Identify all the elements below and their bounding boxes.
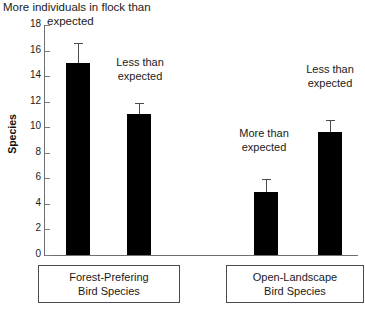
plot-area: 18 16 14 12 10 8 6 4	[44, 25, 358, 255]
y-tick-mark	[45, 76, 50, 77]
annotation-line-1: Less than	[306, 63, 354, 75]
annotation-open-more-than-expected: More than expected	[224, 126, 304, 154]
y-tick-label-2: 2	[11, 222, 41, 233]
y-tick-label-18: 18	[11, 18, 41, 29]
annotation-line-1: Less than	[116, 56, 164, 68]
error-bar-open-less-than-expected	[330, 121, 331, 133]
y-axis-line	[44, 25, 45, 256]
y-tick-label-16: 16	[11, 44, 41, 55]
error-cap-forest-less-than-expected	[135, 103, 144, 104]
y-tick-mark	[45, 102, 50, 103]
group-label-line-2: Bird Species	[264, 284, 326, 298]
group-label-open-landscape-bird-species: Open-Landscape Bird Species	[226, 265, 364, 303]
group-label-line-2: Bird Species	[78, 284, 140, 298]
y-tick-label-6: 6	[11, 171, 41, 182]
error-bar-forest-more-than-expected	[78, 44, 79, 63]
annotation-forest-less-than-expected: Less than expected	[100, 55, 180, 83]
y-tick-label-12: 12	[11, 95, 41, 106]
group-label-line-1: Open-Landscape	[253, 270, 337, 284]
bar-chart-figure: More individuals in flock than expected …	[0, 0, 365, 311]
annotation-line-2: expected	[308, 77, 353, 89]
y-tick-mark	[45, 255, 50, 256]
error-bar-forest-less-than-expected	[139, 104, 140, 114]
x-axis-line	[44, 255, 358, 256]
y-tick-mark	[45, 153, 50, 154]
y-tick-mark	[45, 229, 50, 230]
y-tick-label-10: 10	[11, 120, 41, 131]
annotation-line-2: expected	[118, 70, 163, 82]
annotation-open-less-than-expected: Less than expected	[290, 62, 365, 90]
annotation-line-2: expected	[242, 141, 287, 153]
y-tick-label-14: 14	[11, 69, 41, 80]
error-cap-open-less-than-expected	[326, 120, 335, 121]
y-tick-mark	[45, 127, 50, 128]
y-tick-label-0: 0	[11, 248, 41, 259]
bar-forest-less-than-expected[interactable]	[127, 114, 151, 255]
error-cap-open-more-than-expected	[262, 179, 271, 180]
group-label-line-1: Forest-Prefering	[69, 270, 148, 284]
y-tick-mark	[45, 204, 50, 205]
annotation-line-1: More than	[239, 127, 289, 139]
y-tick-mark	[45, 51, 50, 52]
y-tick-mark	[45, 25, 50, 26]
group-label-forest-prefering-bird-species: Forest-Prefering Bird Species	[38, 265, 180, 303]
bar-open-less-than-expected[interactable]	[318, 132, 342, 255]
error-bar-open-more-than-expected	[266, 180, 267, 193]
bar-open-more-than-expected[interactable]	[254, 192, 278, 255]
y-tick-label-8: 8	[11, 146, 41, 157]
error-cap-forest-more-than-expected	[74, 43, 83, 44]
y-tick-label-4: 4	[11, 197, 41, 208]
y-tick-mark	[45, 178, 50, 179]
bar-forest-more-than-expected[interactable]	[66, 63, 90, 255]
chart-title-line-1: More individuals in flock than	[3, 0, 233, 14]
